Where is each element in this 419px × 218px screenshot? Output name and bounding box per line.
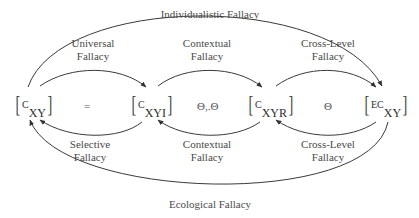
label-universal-fallacy: Universal Fallacy xyxy=(58,37,128,63)
arrow-contextual-top xyxy=(158,70,262,87)
right-bracket: ] xyxy=(168,93,173,115)
left-bracket: [ xyxy=(16,93,21,115)
operator-theta-dot-theta: Θ,.Θ xyxy=(197,100,218,112)
node-ec-xy: [ECXY] xyxy=(363,93,409,117)
node-c-xyr: [CXYR] xyxy=(247,93,295,117)
label-contextual-fallacy-top: Contextual Fallacy xyxy=(172,37,242,63)
right-bracket: ] xyxy=(403,93,408,115)
node-c-xy: [CXY] xyxy=(14,93,54,117)
label-individualistic-fallacy: Individualistic Fallacy xyxy=(150,8,270,21)
operator-theta: Θ xyxy=(324,100,332,112)
arrow-crosslevel-top xyxy=(276,70,376,87)
label-contextual-fallacy-bottom: Contextual Fallacy xyxy=(172,138,242,164)
label-selective-fallacy: Selective Fallacy xyxy=(55,138,125,164)
right-bracket: ] xyxy=(48,93,53,115)
arrow-crosslevel-bottom xyxy=(276,120,376,135)
left-bracket: [ xyxy=(249,93,254,115)
left-bracket: [ xyxy=(132,93,137,115)
left-bracket: [ xyxy=(365,93,370,115)
label-crosslevel-fallacy-top: Cross-Level Fallacy xyxy=(290,37,366,63)
label-ecological-fallacy: Ecological Fallacy xyxy=(150,198,270,211)
node-c-xyi: [CXYI] xyxy=(130,93,174,117)
operator-equals: = xyxy=(84,100,90,112)
arrow-contextual-bottom xyxy=(158,120,260,135)
arrow-selective xyxy=(40,120,142,135)
right-bracket: ] xyxy=(289,93,294,115)
label-crosslevel-fallacy-bottom: Cross-Level Fallacy xyxy=(290,138,366,164)
arrow-universal xyxy=(40,70,146,87)
